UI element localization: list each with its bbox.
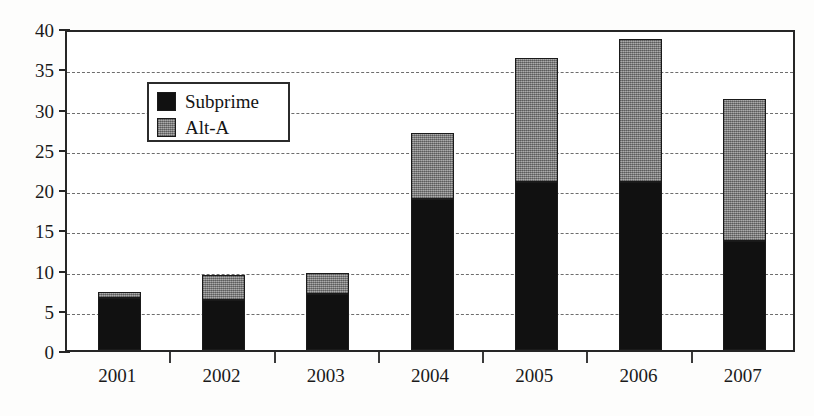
x-tick-mark (482, 352, 484, 363)
bar-segment-alt-a-2005 (515, 58, 558, 182)
x-tick-label-2005: 2005 (484, 366, 584, 387)
bar-segment-alt-a-2006 (619, 39, 662, 181)
legend-item-subprime: Subprime (157, 88, 288, 114)
bar-segment-subprime-2007 (723, 241, 766, 350)
legend-swatch-alt-a-icon (157, 118, 176, 137)
x-tick-mark (691, 352, 693, 363)
bar-2002 (202, 275, 245, 350)
x-tick-mark (169, 352, 171, 363)
y-tick-label: 40 (18, 21, 54, 40)
y-tick-label: 30 (18, 101, 54, 120)
y-tick-label: 35 (18, 61, 54, 80)
bar-2003 (306, 273, 349, 350)
y-tick-label: 10 (18, 262, 54, 281)
x-axis-ticks (65, 352, 795, 364)
x-tick-mark (378, 352, 380, 363)
x-tick-mark (586, 352, 588, 363)
bar-segment-alt-a-2003 (306, 273, 349, 294)
y-tick-label: 15 (18, 222, 54, 241)
stacked-bar-chart: 0510152025303540 Subprime Alt-A 20012002… (0, 0, 814, 416)
y-axis-labels: 0510152025303540 (10, 30, 54, 352)
legend-item-alt-a: Alt-A (157, 114, 288, 140)
y-tick-label: 5 (18, 302, 54, 321)
x-tick-label-2004: 2004 (380, 366, 480, 387)
x-tick-label-2003: 2003 (276, 366, 376, 387)
bar-2005 (515, 58, 558, 350)
legend-label-subprime: Subprime (185, 92, 259, 111)
chart-legend: Subprime Alt-A (147, 82, 290, 142)
bars-layer (67, 32, 793, 350)
legend-label-alt-a: Alt-A (185, 118, 229, 137)
y-tick-label: 0 (18, 343, 54, 362)
bar-segment-alt-a-2004 (411, 133, 454, 199)
y-tick-label: 25 (18, 141, 54, 160)
bar-2006 (619, 39, 662, 350)
legend-swatch-subprime-icon (157, 92, 176, 111)
x-tick-mark (274, 352, 276, 363)
x-tick-label-2007: 2007 (693, 366, 793, 387)
bar-segment-subprime-2006 (619, 182, 662, 350)
bar-segment-alt-a-2007 (723, 99, 766, 241)
x-axis-labels: 2001200220032004200520062007 (65, 364, 795, 400)
plot-area: Subprime Alt-A (65, 30, 795, 352)
x-tick-label-2006: 2006 (589, 366, 689, 387)
bar-segment-subprime-2003 (306, 294, 349, 350)
bar-2007 (723, 99, 766, 350)
bar-2001 (98, 292, 141, 350)
x-tick-label-2002: 2002 (171, 366, 271, 387)
bar-segment-subprime-2002 (202, 300, 245, 350)
bar-segment-alt-a-2002 (202, 275, 245, 300)
x-tick-label-2001: 2001 (67, 366, 167, 387)
y-tick-label: 20 (18, 182, 54, 201)
bar-segment-subprime-2005 (515, 182, 558, 350)
bar-segment-subprime-2001 (98, 298, 141, 350)
bar-2004 (411, 133, 454, 350)
bar-segment-alt-a-2001 (98, 292, 141, 298)
bar-segment-subprime-2004 (411, 199, 454, 350)
